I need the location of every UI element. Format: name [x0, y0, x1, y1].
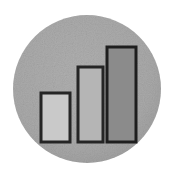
bar-chart-icon: [0, 0, 174, 174]
bar-1: [41, 93, 70, 142]
bar-2: [78, 67, 103, 142]
bar-3: [107, 47, 136, 142]
icon-canvas: [0, 0, 174, 174]
